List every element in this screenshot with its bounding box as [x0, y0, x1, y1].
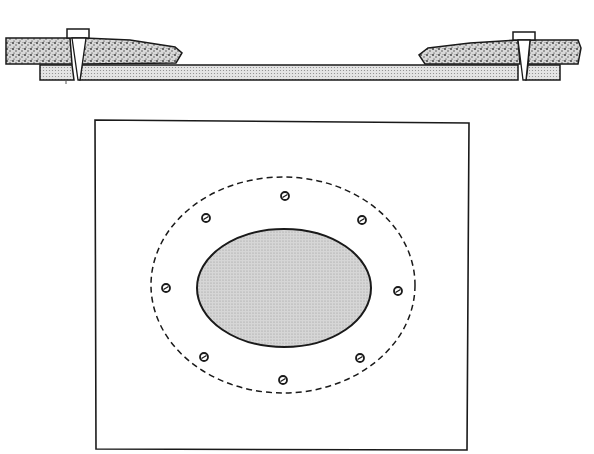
- right-floor-board: [528, 40, 581, 64]
- plan-view: [95, 120, 469, 450]
- left-floor-board-tapered: [82, 38, 182, 64]
- screw-head-icon: [279, 376, 287, 384]
- screw-head-icon: [394, 287, 402, 295]
- floor-patch-ellipse: [197, 229, 371, 347]
- backing-plank-main: [80, 65, 518, 80]
- screw-head-icon: [162, 284, 170, 292]
- screw-head-icon: [356, 354, 364, 362]
- left-floor-board: [6, 38, 72, 64]
- screw-head-icon: [281, 192, 289, 200]
- screw-head-icon: [200, 353, 208, 361]
- screw-head-icon: [202, 214, 210, 222]
- backing-plank: [40, 65, 74, 80]
- cross-section: [6, 29, 581, 84]
- right-floor-board-tapered: [419, 40, 520, 64]
- backing-plank-right: [526, 65, 560, 80]
- screw-head-icon: [358, 216, 366, 224]
- floor-patch-diagram: [0, 0, 594, 454]
